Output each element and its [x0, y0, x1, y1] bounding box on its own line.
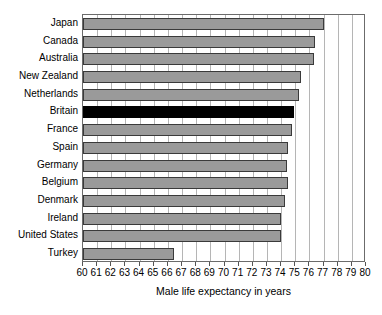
tick-mark	[195, 262, 196, 266]
tick-mark	[280, 262, 281, 266]
tick-mark	[365, 262, 366, 266]
tick-mark	[323, 262, 324, 266]
bar	[83, 213, 281, 225]
tick-mark	[209, 262, 210, 266]
bar	[83, 18, 324, 30]
tick-mark	[351, 262, 352, 266]
bar-row	[83, 71, 364, 83]
bar	[83, 36, 315, 48]
category-label: Canada	[43, 35, 78, 46]
bar-row	[83, 177, 364, 189]
bar	[83, 177, 288, 189]
bar-chart: JapanCanadaAustraliaNew ZealandNetherlan…	[0, 0, 382, 315]
category-label: Ireland	[47, 212, 78, 223]
bar-row	[83, 36, 364, 48]
bar	[83, 106, 294, 118]
category-label: Belgium	[42, 176, 78, 187]
bar	[83, 195, 285, 207]
tick-mark	[167, 262, 168, 266]
bar-row	[83, 124, 364, 136]
tick-mark	[110, 262, 111, 266]
category-label: Germany	[37, 159, 78, 170]
bar-row	[83, 230, 364, 242]
x-axis-tick-labels: 6061626364656667686970717273747576777879…	[82, 267, 365, 281]
tick-mark	[294, 262, 295, 266]
category-label: Denmark	[37, 194, 78, 205]
bar-row	[83, 106, 364, 118]
category-label: New Zealand	[19, 70, 78, 81]
y-axis-category-labels: JapanCanadaAustraliaNew ZealandNetherlan…	[0, 14, 78, 262]
bar-row	[83, 213, 364, 225]
bar-row	[83, 160, 364, 172]
bar-row	[83, 248, 364, 260]
category-label: Netherlands	[24, 88, 78, 99]
plot-area	[82, 14, 365, 262]
category-label: Australia	[39, 52, 78, 63]
x-axis-title: Male life expectancy in years	[82, 285, 365, 298]
tick-mark	[96, 262, 97, 266]
category-label: France	[47, 123, 78, 134]
bar-row	[83, 89, 364, 101]
tick-label: 80	[356, 267, 374, 279]
bar	[83, 124, 292, 136]
bar	[83, 71, 301, 83]
tick-mark	[308, 262, 309, 266]
tick-mark	[153, 262, 154, 266]
tick-mark	[266, 262, 267, 266]
bar-row	[83, 142, 364, 154]
tick-mark	[252, 262, 253, 266]
bar	[83, 53, 314, 65]
category-label: Spain	[52, 141, 78, 152]
category-label: United States	[18, 229, 78, 240]
bar	[83, 160, 287, 172]
tick-mark	[82, 262, 83, 266]
tick-mark	[337, 262, 338, 266]
tick-mark	[139, 262, 140, 266]
tick-mark	[238, 262, 239, 266]
bar-row	[83, 53, 364, 65]
tick-mark	[181, 262, 182, 266]
bar-row	[83, 195, 364, 207]
category-label: Japan	[51, 17, 78, 28]
x-axis-tick-marks	[82, 262, 365, 266]
bar	[83, 248, 174, 260]
category-label: Turkey	[48, 247, 78, 258]
bar	[83, 89, 299, 101]
tick-mark	[124, 262, 125, 266]
category-label: Britain	[50, 105, 78, 116]
bar	[83, 230, 281, 242]
bar	[83, 142, 288, 154]
tick-mark	[224, 262, 225, 266]
bar-row	[83, 18, 364, 30]
